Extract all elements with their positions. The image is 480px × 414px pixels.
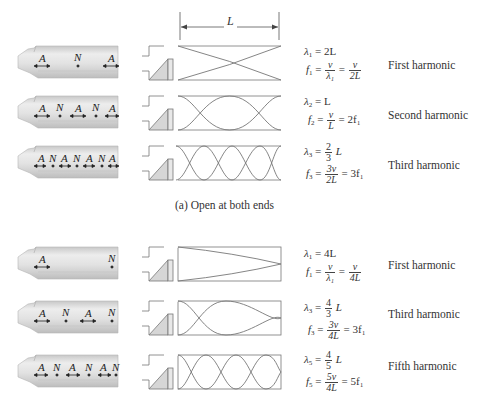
node-label: N (49, 153, 56, 164)
pipe-closed-fifth-harmonic: A N A N A N (16, 353, 120, 389)
standing-wave-closed-n5 (142, 353, 284, 391)
node-label: N (56, 102, 63, 113)
standing-wave-closed-n1 (142, 245, 284, 283)
harmonic-label: First harmonic (388, 259, 455, 271)
antinode-label: A (39, 308, 46, 319)
antinode-label: A (38, 362, 45, 373)
antinode-label: A (38, 153, 45, 164)
antinode-label: A (108, 53, 115, 64)
node-label: N (98, 153, 105, 164)
node-label: N (85, 362, 92, 373)
length-label: L (224, 14, 237, 29)
antinode-label: A (100, 362, 107, 373)
node-label: N (53, 362, 60, 373)
standing-wave-open-n2 (142, 94, 284, 132)
antinode-label: A (69, 362, 76, 373)
node-label: N (112, 362, 119, 373)
node-label: N (92, 102, 99, 113)
harmonic-label: Fifth harmonic (388, 360, 457, 372)
antinode-label: A (109, 153, 116, 164)
node-label: N (74, 52, 81, 63)
harmonic-label: Second harmonic (388, 109, 468, 121)
antinode-label: A (39, 53, 46, 64)
harmonic-label: First harmonic (388, 59, 455, 71)
antinode-label: A (39, 254, 46, 265)
antinode-label: A (75, 103, 82, 114)
node-label: N (108, 253, 115, 264)
antinode-label: A (61, 153, 68, 164)
node-label: N (62, 307, 69, 318)
pipe-closed-third-harmonic: A N A N (16, 299, 120, 335)
standing-wave-open-n3 (142, 144, 284, 182)
pipe-open-second-harmonic: A N A N A (16, 94, 120, 130)
node-label: N (108, 307, 115, 318)
node-label: N (73, 153, 80, 164)
antinode-label: A (39, 103, 46, 114)
standing-wave-closed-n3 (142, 299, 284, 337)
pipe-open-third-harmonic: A N A N A N A (16, 144, 120, 180)
antinode-label: A (109, 103, 116, 114)
pipe-open-first-harmonic: A N A (16, 44, 120, 80)
pipe-closed-first-harmonic: A N (16, 245, 120, 281)
harmonic-label: Third harmonic (388, 308, 460, 320)
antinode-label: A (86, 153, 93, 164)
antinode-label: A (85, 308, 92, 319)
harmonic-label: Third harmonic (388, 159, 460, 171)
caption-open-both-ends: (a) Open at both ends (175, 199, 274, 211)
standing-wave-open-n1 (142, 44, 284, 82)
